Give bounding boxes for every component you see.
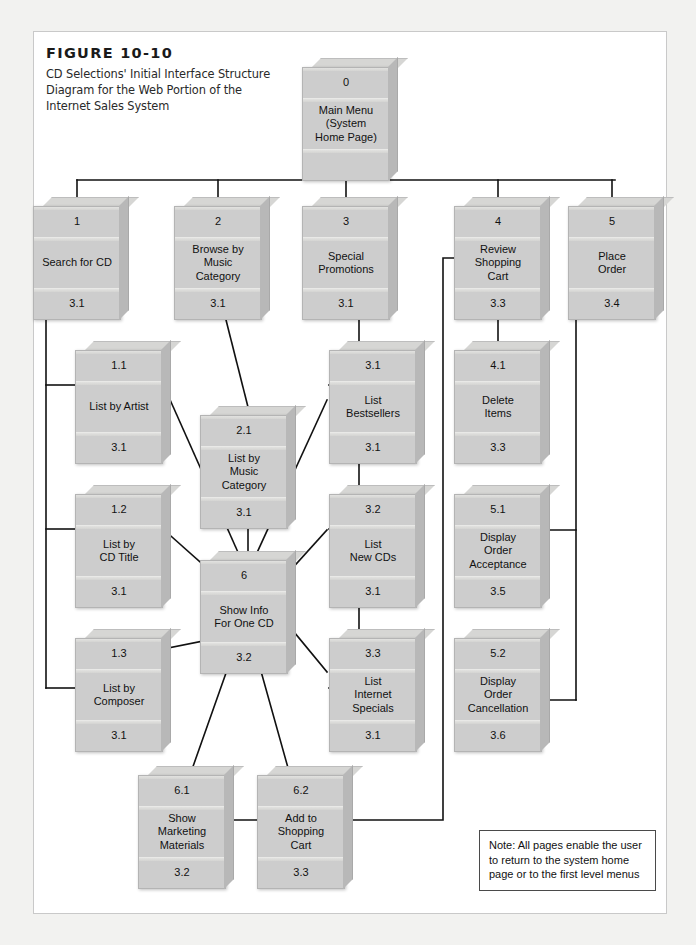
box-label: ListInternetSpecials	[330, 669, 416, 720]
box-label-line: Composer	[94, 695, 145, 708]
box-label-line: Display	[480, 675, 516, 688]
box-reference: 3.1	[175, 288, 261, 319]
box-label-line: Category	[196, 270, 241, 283]
box-side-bevel	[415, 340, 425, 464]
box-label-line: Cancellation	[468, 702, 529, 715]
box-reference: 3.4	[569, 288, 655, 319]
box-face: 6.1ShowMarketingMaterials3.2	[138, 775, 226, 889]
box-side-bevel	[540, 196, 550, 320]
box-number: 1.3	[76, 639, 162, 669]
box-side-bevel	[119, 196, 129, 320]
box-label-line: List	[364, 394, 381, 407]
box-label: ReviewShoppingCart	[455, 237, 541, 288]
box-reference: 3.5	[455, 576, 541, 607]
box-label-line: Delete	[482, 394, 514, 407]
box-number: 3.1	[330, 351, 416, 381]
box-label: DisplayOrderAcceptance	[455, 525, 541, 576]
box-label: List by Artist	[76, 381, 162, 432]
box-label-line: List by	[103, 682, 135, 695]
box-label-line: List	[364, 538, 381, 551]
box-label-line: List by	[103, 538, 135, 551]
box-side-bevel	[540, 340, 550, 464]
box-label-line: Marketing	[158, 825, 206, 838]
box-face: 5PlaceOrder3.4	[568, 206, 656, 320]
box-label-line: Main Menu	[319, 104, 373, 117]
box-label-line: Add to	[285, 812, 317, 825]
box-reference: 3.3	[258, 857, 344, 888]
box-label-line: List by Artist	[89, 400, 148, 413]
figure-number: FIGURE 10-10	[46, 46, 276, 62]
box-label: Show InfoFor One CD	[201, 591, 287, 642]
box-side-bevel	[286, 550, 296, 674]
box-number: 5.2	[455, 639, 541, 669]
box-label-line: Cart	[488, 270, 509, 283]
box-number: 3.3	[330, 639, 416, 669]
box-reference: 3.6	[455, 720, 541, 751]
box-side-bevel	[540, 484, 550, 608]
box-side-bevel	[415, 628, 425, 752]
box-reference: 3.1	[330, 432, 416, 463]
box-side-bevel	[388, 57, 398, 181]
box-reference: 3.3	[455, 288, 541, 319]
box-label-line: List	[364, 675, 381, 688]
box-side-bevel	[388, 196, 398, 320]
box-label-line: Acceptance	[469, 558, 526, 571]
box-reference: 3.1	[34, 288, 120, 319]
box-reference: 3.1	[330, 576, 416, 607]
box-label-line: Specials	[352, 702, 394, 715]
box-face: 1.1List by Artist3.1	[75, 350, 163, 464]
box-label: List byMusicCategory	[201, 446, 287, 497]
box-side-bevel	[224, 765, 234, 889]
box-reference: 3.1	[76, 576, 162, 607]
box-label: Add toShoppingCart	[258, 806, 344, 857]
box-number: 1	[34, 207, 120, 237]
box-face: 3.1ListBestsellers3.1	[329, 350, 417, 464]
box-label-line: Browse by	[192, 243, 243, 256]
box-label: List byComposer	[76, 669, 162, 720]
box-face: 5.1DisplayOrderAcceptance3.5	[454, 494, 542, 608]
box-label-line: Show	[168, 812, 196, 825]
box-label-line: Search for CD	[42, 256, 112, 269]
box-face: 6Show InfoFor One CD3.2	[200, 560, 288, 674]
box-face: 0Main Menu(SystemHome Page)	[302, 67, 390, 181]
box-reference: 3.3	[455, 432, 541, 463]
box-face: 6.2Add toShoppingCart3.3	[257, 775, 345, 889]
box-number: 4.1	[455, 351, 541, 381]
box-number: 5.1	[455, 495, 541, 525]
box-label-line: Promotions	[318, 263, 374, 276]
box-side-bevel	[415, 484, 425, 608]
box-label-line: Bestsellers	[346, 407, 400, 420]
box-number: 6	[201, 561, 287, 591]
box-label-line: Internet	[354, 688, 391, 701]
box-number: 2.1	[201, 416, 287, 446]
box-number: 3.2	[330, 495, 416, 525]
box-reference	[303, 149, 389, 180]
box-face: 1.3List byComposer3.1	[75, 638, 163, 752]
box-label: ShowMarketingMaterials	[139, 806, 225, 857]
box-label-line: (System	[326, 117, 366, 130]
box-face: 1.2List byCD Title3.1	[75, 494, 163, 608]
box-label-line: Order	[484, 688, 512, 701]
box-label-line: For One CD	[214, 617, 273, 630]
box-label-line: Category	[222, 479, 267, 492]
box-label: Main Menu(SystemHome Page)	[303, 98, 389, 149]
box-face: 1Search for CD3.1	[33, 206, 121, 320]
box-label-line: Items	[485, 407, 512, 420]
box-label-line: Special	[328, 250, 364, 263]
box-face: 2.1List byMusicCategory3.1	[200, 415, 288, 529]
box-label-line: Shopping	[278, 825, 325, 838]
box-side-bevel	[260, 196, 270, 320]
box-label-line: Cart	[291, 839, 312, 852]
box-label-line: List by	[228, 452, 260, 465]
box-reference: 3.1	[76, 432, 162, 463]
box-label: DeleteItems	[455, 381, 541, 432]
box-label-line: Place	[598, 250, 626, 263]
box-label-line: Show Info	[220, 604, 269, 617]
box-face: 5.2DisplayOrderCancellation3.6	[454, 638, 542, 752]
box-face: 3.2ListNew CDs3.1	[329, 494, 417, 608]
box-label-line: CD Title	[99, 551, 138, 564]
box-reference: 3.2	[201, 642, 287, 673]
box-number: 5	[569, 207, 655, 237]
box-label: DisplayOrderCancellation	[455, 669, 541, 720]
box-face: 4.1DeleteItems3.3	[454, 350, 542, 464]
